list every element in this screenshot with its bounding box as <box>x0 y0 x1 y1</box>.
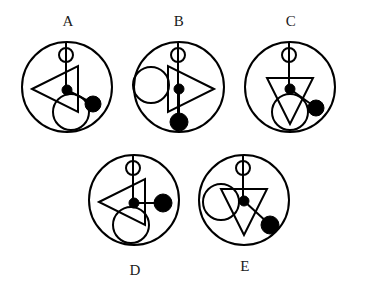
figure-label-e: E <box>225 258 265 274</box>
figure-label-b: B <box>159 13 199 29</box>
branch-dot-c <box>308 100 324 116</box>
figure-b-drawing <box>129 39 229 139</box>
figure-b[interactable] <box>129 39 229 139</box>
figure-label-d: D <box>115 262 155 278</box>
figure-a-drawing <box>17 39 117 139</box>
branch-dot-b <box>170 113 188 131</box>
figure-c-drawing <box>240 39 340 139</box>
hub-dot-b <box>174 84 184 94</box>
figure-d[interactable] <box>84 152 184 252</box>
branch-dot-d <box>154 194 172 212</box>
figure-panel: A B C D E <box>0 0 367 292</box>
figure-e-drawing <box>194 152 294 252</box>
figure-d-drawing <box>84 152 184 252</box>
branch-dot-a <box>85 96 101 112</box>
hub-dot-e <box>239 196 249 206</box>
figure-a[interactable] <box>17 39 117 139</box>
branch-dot-e <box>261 216 279 234</box>
hub-dot-d <box>129 198 139 208</box>
figure-c[interactable] <box>240 39 340 139</box>
figure-label-c: C <box>271 13 311 29</box>
hub-dot-a <box>62 85 72 95</box>
figure-e[interactable] <box>194 152 294 252</box>
open-circle-b <box>133 67 169 103</box>
figure-label-a: A <box>48 13 88 29</box>
hub-dot-c <box>285 84 295 94</box>
